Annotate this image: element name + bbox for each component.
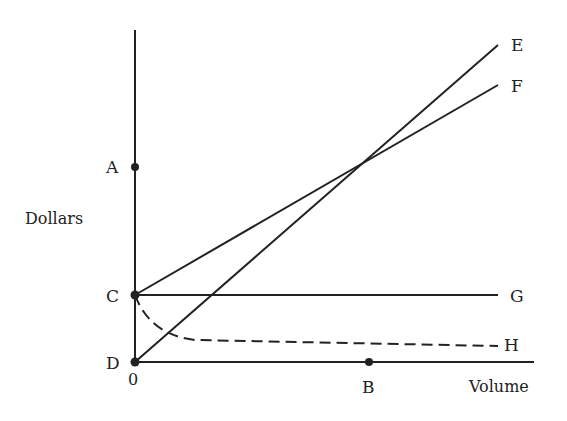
point-c — [131, 291, 140, 300]
point-d — [131, 358, 140, 367]
label-g: G — [510, 286, 524, 306]
label-a: A — [105, 157, 119, 177]
label-f: F — [511, 76, 523, 96]
label-b: B — [362, 377, 375, 397]
label-e: E — [511, 35, 523, 55]
cost-volume-diagram: A C D 0 B E F G H Dollars Volume — [0, 0, 567, 421]
y-axis-label: Dollars — [25, 209, 83, 228]
line-e — [135, 45, 498, 362]
label-h: H — [504, 335, 519, 355]
label-origin: 0 — [128, 370, 138, 389]
point-b — [365, 358, 373, 366]
point-a — [131, 163, 139, 171]
line-f — [135, 85, 498, 295]
label-d: D — [106, 353, 120, 373]
line-h-dashed-curve — [135, 295, 498, 346]
label-c: C — [106, 286, 119, 306]
x-axis-label: Volume — [468, 377, 529, 396]
